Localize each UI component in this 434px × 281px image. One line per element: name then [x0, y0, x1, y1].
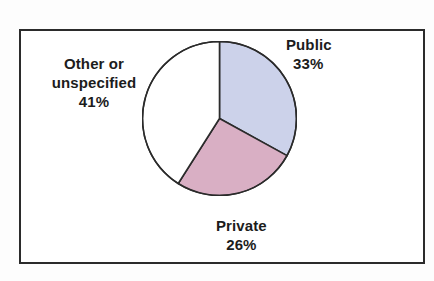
pie-chart-plot-area: Public 33% Private 26% Other or unspecif…: [0, 0, 434, 281]
pie-label-public-percent: 33%: [286, 54, 332, 73]
pie-label-other-line2: unspecified: [38, 73, 150, 92]
pie-label-private: Private 26%: [216, 216, 267, 254]
pie-label-other-percent: 41%: [38, 92, 150, 111]
figure-container: Public 33% Private 26% Other or unspecif…: [0, 0, 434, 281]
pie-label-public: Public 33%: [286, 35, 332, 73]
pie-chart-svg: [142, 41, 297, 196]
pie-label-other-line1: Other or: [38, 54, 150, 73]
pie-label-private-percent: 26%: [216, 235, 267, 254]
pie-label-public-name: Public: [286, 36, 332, 53]
pie-label-private-name: Private: [216, 217, 267, 234]
pie-label-other-unspecified: Other or unspecified 41%: [38, 54, 150, 111]
